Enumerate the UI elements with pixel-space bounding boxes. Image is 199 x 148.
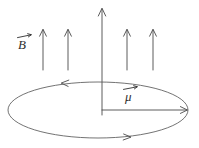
magnetic-moment-vector-label: μ [123,85,132,103]
vertical-axis-arrow [98,8,105,115]
magnetic-moment-symbol: μ [123,90,132,103]
magnetic-field-arrow-group [40,29,157,70]
magnetic-field-arrow-2 [65,29,72,70]
diagram-canvas [0,0,199,148]
magnetic-field-symbol: B [17,38,26,51]
physics-diagram-figure: B μ [0,0,199,148]
mu-overarrow-icon [123,85,132,91]
b-overarrow-icon [17,33,26,39]
magnetic-field-vector-label: B [17,33,26,51]
magnetic-field-arrow-4 [150,29,157,70]
magnetic-field-arrow-3 [124,29,131,70]
magnetic-moment-arrow [102,107,187,114]
magnetic-field-arrow-1 [40,29,47,70]
